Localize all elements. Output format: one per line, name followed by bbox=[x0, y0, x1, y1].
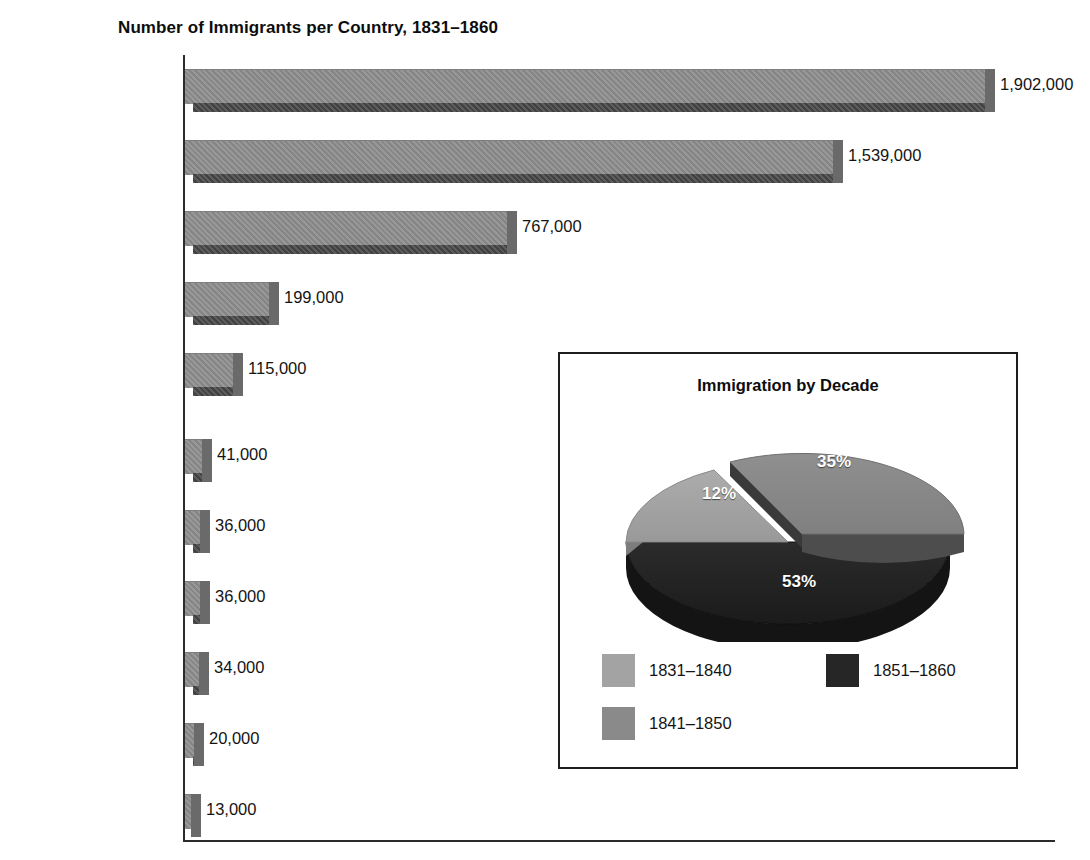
legend-label: 1851–1860 bbox=[873, 661, 956, 680]
bar-value-label: 13,000 bbox=[206, 800, 256, 819]
bar-value-label: 115,000 bbox=[248, 359, 306, 378]
bar-value-label: 20,000 bbox=[209, 729, 259, 748]
pie-label-53: 53% bbox=[782, 572, 816, 592]
pie-chart-title: Immigration by Decade bbox=[560, 376, 1016, 395]
bar-graphic bbox=[185, 55, 985, 123]
bar-value-label: 767,000 bbox=[522, 217, 582, 236]
bar-graphic bbox=[185, 197, 507, 265]
bar-value-label: 36,000 bbox=[215, 516, 265, 535]
bar-graphic bbox=[185, 567, 200, 635]
legend-swatch-icon bbox=[826, 654, 859, 687]
legend-swatch-icon bbox=[602, 654, 635, 687]
bar-value-label: 34,000 bbox=[214, 658, 264, 677]
bar-graphic bbox=[185, 638, 199, 706]
bar-value-label: 1,902,000 bbox=[1000, 75, 1073, 94]
bar-row: Mexico 13,000 bbox=[0, 780, 1090, 848]
bar-row: France 199,000 bbox=[0, 268, 1090, 336]
bar-graphic bbox=[185, 496, 200, 564]
legend-item-1831-1840: 1831–1840 bbox=[602, 654, 732, 687]
legend-item-1841-1850: 1841–1850 bbox=[602, 707, 732, 740]
legend-label: 1831–1840 bbox=[649, 661, 732, 680]
bar-row: Ireland 1,902,000 bbox=[0, 55, 1090, 123]
pie-chart-graphic: 35% 12% 53% bbox=[602, 412, 974, 642]
legend-item-1851-1860: 1851–1860 bbox=[826, 654, 956, 687]
legend-label: 1841–1850 bbox=[649, 714, 732, 733]
bar-graphic bbox=[185, 339, 233, 407]
chart-page: Number of Immigrants per Country, 1831–1… bbox=[0, 0, 1090, 860]
bar-graphic bbox=[185, 709, 194, 777]
page-title: Number of Immigrants per Country, 1831–1… bbox=[118, 18, 498, 38]
bar-value-label: 199,000 bbox=[284, 288, 344, 307]
pie-svg bbox=[602, 412, 974, 642]
bar-graphic bbox=[185, 126, 833, 194]
pie-label-35: 35% bbox=[817, 452, 851, 472]
legend-swatch-icon bbox=[602, 707, 635, 740]
bar-graphic bbox=[185, 425, 202, 493]
bar-row: German States 1,539,000 bbox=[0, 126, 1090, 194]
bar-value-label: 41,000 bbox=[217, 445, 267, 464]
bar-graphic bbox=[185, 780, 191, 848]
bar-value-label: 36,000 bbox=[215, 587, 265, 606]
bar-value-label: 1,539,000 bbox=[848, 146, 921, 165]
pie-inset-panel: Immigration by Decade bbox=[558, 352, 1018, 769]
bar-graphic bbox=[185, 268, 269, 336]
pie-label-12: 12% bbox=[702, 484, 736, 504]
bar-row: Great Britain 767,000 bbox=[0, 197, 1090, 265]
